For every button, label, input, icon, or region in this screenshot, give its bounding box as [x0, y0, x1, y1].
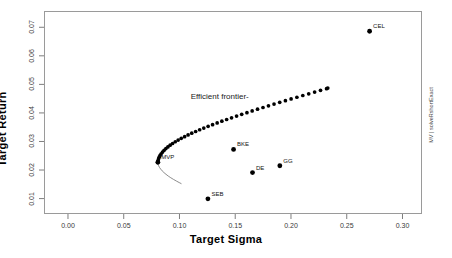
point-label-gg: GG — [283, 158, 292, 164]
point-label-seb: SEB — [211, 191, 223, 197]
y-tick-label: 0.07 — [28, 20, 35, 34]
data-point — [198, 128, 202, 132]
data-point — [240, 113, 244, 117]
chart-canvas — [0, 0, 452, 258]
data-point — [206, 125, 210, 129]
data-point — [272, 102, 276, 106]
x-tick-label: 0.20 — [284, 222, 298, 229]
data-point — [225, 118, 229, 122]
point-label-de: DE — [256, 165, 264, 171]
data-point — [245, 111, 249, 115]
data-point — [277, 163, 282, 168]
y-tick-label: 0.01 — [28, 192, 35, 206]
data-point — [155, 160, 160, 165]
data-point — [186, 133, 190, 137]
y-tick-label: 0.03 — [28, 135, 35, 149]
data-point — [313, 90, 317, 94]
data-point — [295, 95, 299, 99]
data-point — [261, 106, 265, 110]
y-tick-label: 0.04 — [28, 106, 35, 120]
data-point — [284, 99, 288, 103]
data-point — [250, 170, 255, 175]
x-tick-label: 0.25 — [340, 222, 354, 229]
x-tick-label: 0.10 — [173, 222, 187, 229]
data-point — [278, 101, 282, 105]
y-tick-label: 0.06 — [28, 49, 35, 63]
data-point — [220, 119, 224, 123]
data-point — [183, 135, 187, 139]
data-point — [206, 196, 211, 201]
data-point — [319, 89, 323, 93]
data-point — [215, 121, 219, 125]
frontier-lower-branch — [158, 162, 182, 183]
data-point — [367, 29, 372, 34]
y-axis-title: Target Return — [0, 91, 8, 166]
y-tick-label: 0.02 — [28, 163, 35, 177]
x-tick-label: 0.15 — [228, 222, 242, 229]
chart-figure: Target Sigma Target Return MV | solveRsh… — [0, 0, 452, 258]
data-point — [307, 92, 311, 96]
point-label-cel: CEL — [373, 23, 385, 29]
data-point — [235, 114, 239, 118]
efficient-frontier-annotation: Efficient frontier- — [191, 92, 249, 101]
y-tick-label: 0.05 — [28, 78, 35, 92]
point-label-mvp: MVP — [161, 154, 174, 160]
data-point — [179, 136, 183, 140]
x-tick-label: 0.05 — [117, 222, 131, 229]
data-point — [256, 107, 260, 111]
x-tick-label: 0.30 — [396, 222, 410, 229]
data-point — [202, 126, 206, 130]
data-point — [176, 138, 180, 142]
x-axis-title: Target Sigma — [0, 233, 452, 245]
data-point — [301, 94, 305, 98]
data-point — [267, 104, 271, 108]
data-point — [250, 109, 254, 113]
data-point — [194, 130, 198, 134]
plot-side-note: MV | solveRshortExact — [428, 87, 434, 143]
data-point — [231, 147, 236, 152]
data-point — [326, 86, 330, 90]
data-point — [211, 123, 215, 127]
x-tick-label: 0.00 — [61, 222, 75, 229]
point-label-bke: BKE — [237, 141, 249, 147]
data-point — [190, 131, 194, 135]
data-point — [289, 97, 293, 101]
data-point — [230, 116, 234, 120]
